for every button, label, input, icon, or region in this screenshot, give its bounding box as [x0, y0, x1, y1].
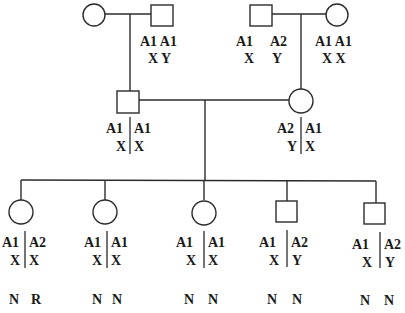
allele-label: A1 [134, 121, 151, 136]
child-1: A1 X A2 X N R [2, 180, 46, 307]
male-symbol [276, 201, 297, 222]
sex-chromosome-label: Y [292, 253, 302, 268]
sex-chromosome-label: Y [287, 139, 297, 154]
status-label: N [292, 292, 302, 307]
sex-chromosome-label: X [269, 253, 279, 268]
status-label: N [384, 293, 394, 308]
sex-chromosome-label: X [92, 253, 102, 268]
allele-label: A2 [277, 121, 294, 136]
child-4: A1 X A2 Y N N [259, 181, 308, 307]
sex-chromosome-label: Y [385, 255, 395, 270]
sex-chromosome-label: X [116, 139, 126, 154]
child-5: A1 X A2 Y N N [352, 181, 401, 308]
allele-label: A1 [84, 235, 101, 250]
allele-label: A1 [352, 237, 369, 252]
status-label: N [184, 292, 194, 307]
sex-chromosome-label: X [29, 253, 39, 268]
gen2-male-haplotypes: A1 X A1 X [106, 117, 151, 154]
status-label: R [31, 292, 42, 307]
sex-chromosome-label: X [111, 253, 121, 268]
allele-label: A1 [236, 34, 253, 49]
gen2-female-haplotypes: A2 Y A1 X [277, 117, 322, 154]
gen3-sibship: A1 X A2 X N R A1 X A1 X N N A1 X A1 [2, 180, 401, 308]
allele-label: A2 [29, 235, 46, 250]
sex-chromosome-label: X [186, 253, 196, 268]
gen2-couple: A1 X A1 X A2 Y A1 X [106, 89, 322, 180]
allele-label: A1 [176, 235, 193, 250]
sex-chromosome-label: Y [272, 51, 282, 66]
gen1-right-female-genotype: A1 A1 X X [315, 34, 352, 66]
status-label: N [208, 292, 218, 307]
female-symbol [9, 200, 33, 224]
gen1-right-couple: A1 A2 X Y A1 A1 X X [236, 4, 352, 89]
gen1-left-couple: A1 A1 X Y [83, 4, 177, 91]
child-2: A1 X A1 X N N [84, 180, 128, 307]
sex-chromosome-label: X Y [148, 51, 171, 66]
sibship-line [21, 180, 376, 181]
sex-chromosome-label: X [134, 139, 144, 154]
female-symbol [289, 89, 313, 113]
status-label: N [267, 292, 277, 307]
allele-label: A1 [106, 121, 123, 136]
status-label: N [360, 293, 370, 308]
gen1-left-male-genotype: A1 A1 X Y [140, 34, 177, 66]
gen1-right-male-genotype: A1 A2 X Y [236, 34, 287, 66]
allele-label: A1 [259, 235, 276, 250]
allele-label: A1 [2, 235, 19, 250]
sex-chromosome-label: X [244, 51, 254, 66]
allele-label: A1 [208, 235, 225, 250]
sex-chromosome-label: X X [322, 51, 346, 66]
allele-label: A1 [111, 235, 128, 250]
female-symbol [326, 4, 348, 26]
allele-label: A2 [384, 237, 401, 252]
status-label: N [92, 292, 102, 307]
status-label: N [112, 292, 122, 307]
allele-label: A1 A1 [315, 34, 352, 49]
female-symbol [93, 200, 117, 224]
female-symbol [83, 4, 105, 26]
male-symbol [364, 203, 385, 224]
pedigree-diagram: A1 A1 X Y A1 A2 X Y A1 A1 X X A1 X A1 [0, 0, 405, 313]
male-symbol [151, 5, 173, 26]
allele-label: A2 [291, 235, 308, 250]
male-symbol [117, 91, 139, 113]
male-symbol [250, 5, 272, 26]
allele-label: A1 [305, 121, 322, 136]
sex-chromosome-label: X [10, 253, 20, 268]
sex-chromosome-label: X [305, 139, 315, 154]
allele-label: A1 A1 [140, 34, 177, 49]
child-3: A1 X A1 X N N [176, 180, 225, 307]
female-symbol [192, 201, 216, 225]
allele-label: A2 [270, 34, 287, 49]
status-label: N [9, 292, 19, 307]
sex-chromosome-label: X [208, 253, 218, 268]
sex-chromosome-label: X [362, 255, 372, 270]
